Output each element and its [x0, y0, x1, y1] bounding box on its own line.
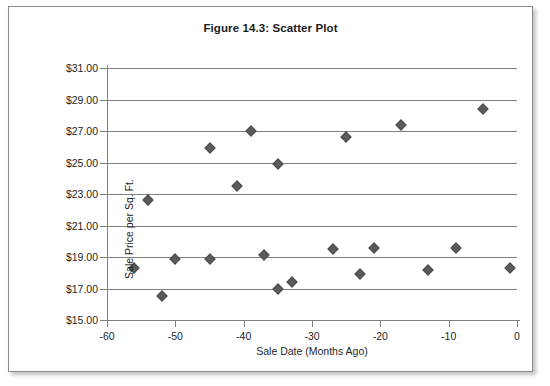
scatter-point: [142, 195, 153, 206]
y-axis-tick: [100, 131, 107, 132]
y-axis-tick-label: $15.00: [66, 314, 98, 326]
y-axis-tick-label: $19.00: [66, 251, 98, 263]
y-axis-tick: [100, 289, 107, 290]
y-axis-tick: [100, 68, 107, 69]
scatter-point: [170, 253, 181, 264]
x-axis-tick-label: -30: [304, 330, 319, 342]
x-axis-tick-label: -40: [236, 330, 251, 342]
scatter-point: [450, 242, 461, 253]
figure-frame: Figure 14.3: Scatter Plot $15.00$17.00$1…: [8, 6, 533, 372]
y-axis-tick-label: $17.00: [66, 283, 98, 295]
scatter-point: [258, 250, 269, 261]
scatter-point: [422, 264, 433, 275]
x-axis-tick-label: -60: [99, 330, 114, 342]
x-axis-tick-label: -50: [168, 330, 183, 342]
y-axis-tick-label: $27.00: [66, 125, 98, 137]
x-axis-tick: [517, 321, 518, 327]
y-axis-tick: [100, 163, 107, 164]
scatter-point: [504, 262, 515, 273]
y-axis-tick: [100, 100, 107, 101]
x-axis-tick-label: -20: [373, 330, 388, 342]
scatter-point: [204, 253, 215, 264]
x-axis-tick-label: -10: [441, 330, 456, 342]
y-axis-tick-label: $21.00: [66, 220, 98, 232]
y-axis-tick: [100, 257, 107, 258]
scatter-point: [368, 242, 379, 253]
y-axis-tick: [100, 226, 107, 227]
scatter-point: [286, 277, 297, 288]
scatter-point: [245, 125, 256, 136]
scatter-point: [354, 269, 365, 280]
y-axis-tick-label: $31.00: [66, 62, 98, 74]
scatter-point: [204, 143, 215, 154]
figure-page: Figure 14.3: Scatter Plot $15.00$17.00$1…: [0, 0, 550, 386]
gridline-y: [107, 289, 517, 290]
gridline-y: [107, 194, 517, 195]
x-axis-tick-label: 0: [514, 330, 520, 342]
y-axis-title: Sale Price per Sq. Ft.: [123, 149, 135, 309]
x-axis-tick: [380, 321, 381, 327]
x-axis-tick: [312, 321, 313, 327]
gridline-y: [107, 226, 517, 227]
x-axis-tick: [449, 321, 450, 327]
scatter-point: [231, 180, 242, 191]
y-axis-tick: [100, 194, 107, 195]
x-axis-title: Sale Date (Months Ago): [107, 345, 517, 357]
gridline-y: [107, 100, 517, 101]
gridline-y: [107, 68, 517, 69]
scatter-point: [395, 119, 406, 130]
y-axis-tick-label: $25.00: [66, 157, 98, 169]
gridline-y: [107, 163, 517, 164]
scatter-point: [156, 291, 167, 302]
y-axis-tick-label: $23.00: [66, 188, 98, 200]
chart-title: Figure 14.3: Scatter Plot: [9, 22, 532, 34]
x-axis-tick: [107, 321, 108, 327]
scatter-point: [272, 283, 283, 294]
x-axis-tick: [244, 321, 245, 327]
scatter-point: [327, 243, 338, 254]
scatter-point: [340, 132, 351, 143]
y-axis-tick-label: $29.00: [66, 94, 98, 106]
gridline-y: [107, 131, 517, 132]
scatter-point: [272, 158, 283, 169]
y-axis-tick: [100, 320, 107, 321]
scatter-point: [477, 103, 488, 114]
x-axis-tick: [175, 321, 176, 327]
plot-area: $15.00$17.00$19.00$21.00$23.00$25.00$27.…: [107, 68, 517, 320]
